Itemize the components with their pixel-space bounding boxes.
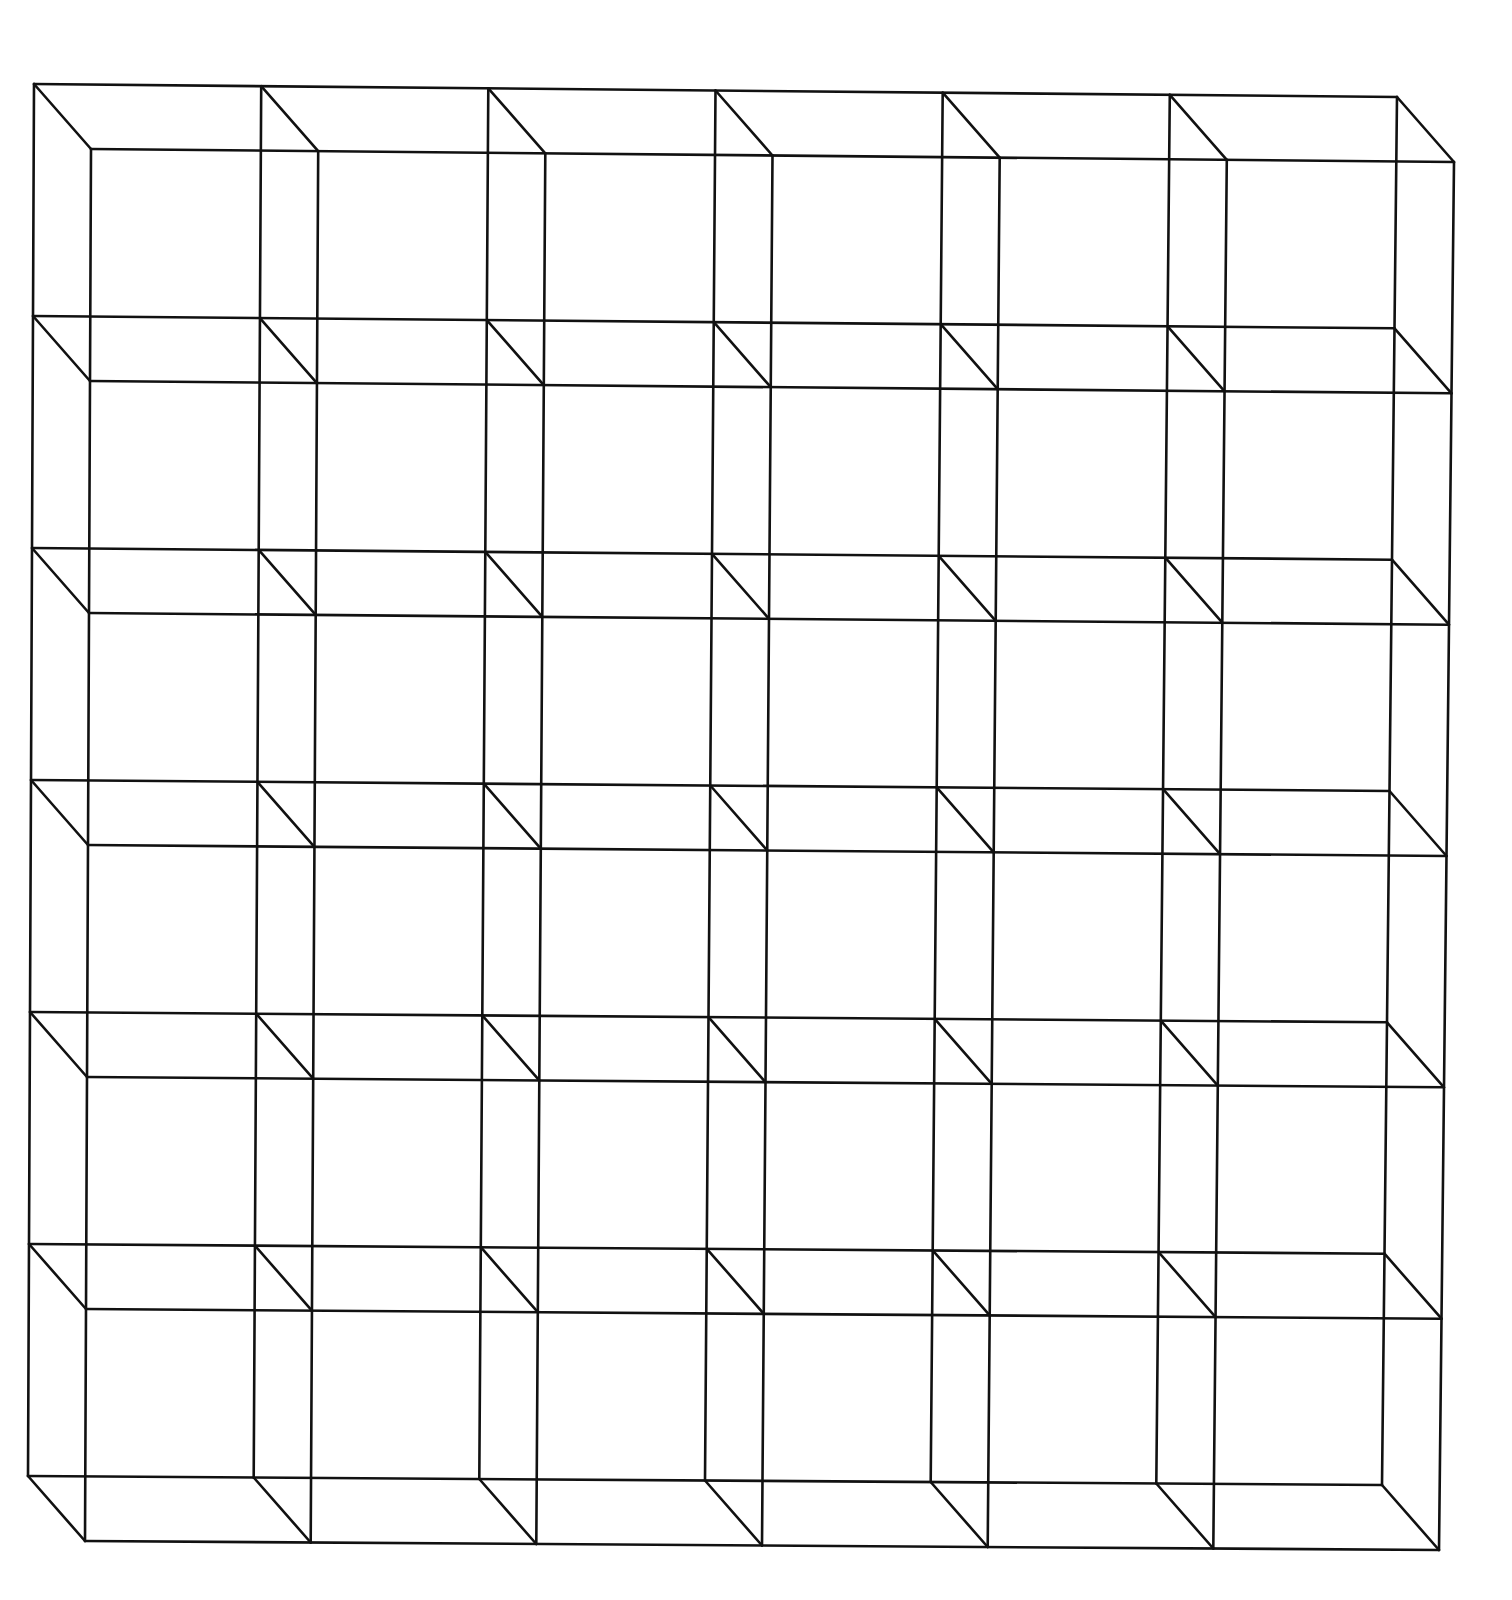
depth-diagonal-edge bbox=[256, 1014, 313, 1079]
depth-diagonal-edge bbox=[941, 324, 998, 389]
depth-diagonal-edge bbox=[937, 787, 994, 852]
depth-diagonal-edge bbox=[479, 1479, 536, 1544]
depth-diagonal-edge bbox=[1395, 328, 1452, 393]
cube-lattice-svg bbox=[0, 0, 1512, 1600]
depth-diagonal-edge bbox=[1170, 95, 1227, 160]
depth-diagonal-edge bbox=[1159, 1252, 1216, 1317]
depth-diagonal-edge bbox=[1390, 791, 1447, 856]
depth-diagonal-edge bbox=[482, 1015, 539, 1080]
depth-diagonal-edge bbox=[254, 1478, 311, 1543]
depth-diagonal-edge bbox=[1392, 560, 1449, 625]
depth-diagonal-edge bbox=[1168, 326, 1225, 391]
depth-diagonal-edge bbox=[939, 556, 996, 621]
depth-diagonal-edge bbox=[716, 91, 773, 156]
back-plane-grid bbox=[28, 84, 1397, 1485]
depth-diagonal-edge bbox=[259, 550, 316, 615]
depth-diagonal-edge bbox=[1156, 1484, 1213, 1549]
depth-diagonal-edge bbox=[260, 318, 317, 383]
depth-diagonal-edge bbox=[29, 1244, 86, 1309]
depth-diagonal-edge bbox=[1387, 1022, 1444, 1087]
depth-diagonal-edge bbox=[943, 93, 1000, 158]
front-plane-grid bbox=[85, 149, 1454, 1550]
depth-diagonal-edge bbox=[707, 1249, 764, 1314]
depth-diagonal-edge bbox=[1397, 97, 1454, 162]
depth-diagonal-edge bbox=[705, 1481, 762, 1546]
depth-diagonal-edge bbox=[935, 1019, 992, 1084]
depth-diagonal-edge bbox=[1165, 558, 1222, 623]
depth-diagonal-edge bbox=[933, 1250, 990, 1315]
depth-diagonal-edge bbox=[481, 1247, 538, 1312]
depth-diagonal-edge bbox=[710, 786, 767, 851]
depth-diagonal-edge bbox=[257, 782, 314, 847]
depth-diagonal-edge bbox=[33, 316, 90, 381]
depth-diagonal-edges bbox=[28, 84, 1454, 1550]
depth-diagonal-edge bbox=[488, 88, 545, 153]
depth-diagonal-edge bbox=[31, 780, 88, 845]
depth-diagonal-edge bbox=[1163, 789, 1220, 854]
depth-diagonal-edge bbox=[34, 84, 91, 149]
depth-diagonal-edge bbox=[1385, 1254, 1442, 1319]
depth-diagonal-edge bbox=[484, 784, 541, 849]
depth-diagonal-edge bbox=[32, 548, 89, 613]
depth-diagonal-edge bbox=[931, 1482, 988, 1547]
depth-diagonal-edge bbox=[487, 320, 544, 385]
depth-diagonal-edge bbox=[485, 552, 542, 617]
depth-diagonal-edge bbox=[261, 86, 318, 151]
depth-diagonal-edge bbox=[709, 1017, 766, 1082]
depth-diagonal-edge bbox=[1382, 1485, 1439, 1550]
depth-diagonal-edge bbox=[255, 1246, 312, 1311]
depth-diagonal-edge bbox=[30, 1012, 87, 1077]
depth-diagonal-edge bbox=[28, 1476, 85, 1541]
cube-lattice-figure bbox=[0, 0, 1512, 1600]
depth-diagonal-edge bbox=[714, 322, 771, 387]
depth-diagonal-edge bbox=[712, 554, 769, 619]
depth-diagonal-edge bbox=[1161, 1021, 1218, 1086]
